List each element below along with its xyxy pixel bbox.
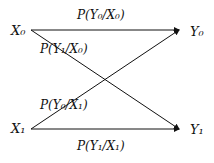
node-x0: X₀: [11, 24, 25, 37]
label-x1-y1: P(Y₁/X₁): [77, 140, 125, 152]
label-x0-y0: P(Y₀/X₀): [77, 9, 125, 21]
node-y1: Y₁: [190, 123, 204, 136]
node-y0: Y₀: [190, 25, 204, 38]
label-x1-y0: P(Y₀/X₁): [40, 99, 88, 111]
label-x0-y1: P(Y₁/X₀): [40, 43, 88, 55]
node-x1: X₁: [11, 122, 25, 135]
